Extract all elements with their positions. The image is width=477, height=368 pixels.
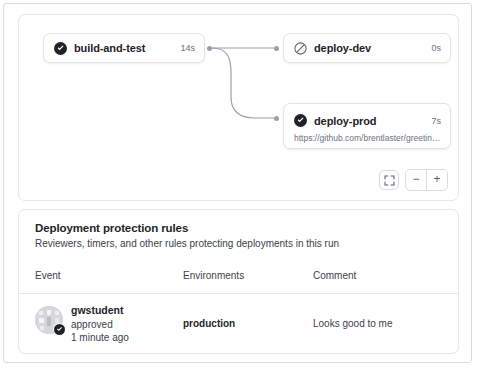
graph-controls: − + <box>379 169 448 191</box>
job-node-name: deploy-dev <box>314 42 424 54</box>
edge-anchor-prod-input <box>274 116 279 121</box>
check-circle-fill-icon <box>54 42 67 55</box>
fit-screen-button[interactable] <box>379 170 399 190</box>
cell-environment: production <box>183 304 313 329</box>
job-node-build-and-test[interactable]: build-and-test 14s <box>43 33 205 63</box>
check-circle-fill-icon <box>294 114 307 127</box>
job-node-duration: 0s <box>431 43 441 53</box>
deployment-protection-rules-panel: Deployment protection rules Reviewers, t… <box>18 209 459 354</box>
skip-circle-icon <box>294 42 307 55</box>
job-node-deployment-url[interactable]: https://github.com/brentlaster/greeting… <box>284 133 450 143</box>
rules-table: Event Environments Comment <box>19 263 458 344</box>
fit-screen-icon <box>384 175 395 186</box>
cell-comment: Looks good to me <box>313 304 442 329</box>
zoom-button-group: − + <box>405 169 448 191</box>
column-header-comment: Comment <box>313 270 442 281</box>
zoom-out-button[interactable]: − <box>406 170 426 188</box>
graph-canvas[interactable]: build-and-test 14s deploy-dev 0s <box>19 15 458 200</box>
job-node-name: deploy-prod <box>314 115 424 127</box>
job-node-deploy-dev[interactable]: deploy-dev 0s <box>283 33 451 63</box>
column-header-event: Event <box>35 270 183 281</box>
job-node-header: deploy-dev 0s <box>284 34 450 62</box>
event-action: approved <box>71 318 129 331</box>
avatar[interactable] <box>35 306 63 334</box>
job-node-duration: 7s <box>431 116 441 126</box>
check-circle-fill-icon <box>54 324 65 335</box>
event-details: gwstudent approved 1 minute ago <box>71 304 129 344</box>
edge-anchor-dev-input <box>274 46 279 51</box>
rules-title: Deployment protection rules <box>35 222 442 234</box>
event-user-name[interactable]: gwstudent <box>71 304 129 318</box>
workflow-graph-panel: build-and-test 14s deploy-dev 0s <box>18 14 459 201</box>
job-node-deploy-prod[interactable]: deploy-prod 7s https://github.com/brentl… <box>283 103 451 149</box>
job-node-header: deploy-prod 7s <box>284 107 450 135</box>
cell-event: gwstudent approved 1 minute ago <box>35 304 183 344</box>
job-node-header: build-and-test 14s <box>44 34 204 62</box>
table-row: gwstudent approved 1 minute ago producti… <box>19 294 458 344</box>
zoom-in-button[interactable]: + <box>427 170 447 188</box>
rules-table-header-row: Event Environments Comment <box>19 263 458 287</box>
screenshot-root: build-and-test 14s deploy-dev 0s <box>3 3 472 363</box>
rules-subtitle: Reviewers, timers, and other rules prote… <box>35 238 442 249</box>
edge-build-to-prod <box>212 48 274 118</box>
rules-header: Deployment protection rules Reviewers, t… <box>19 210 458 249</box>
job-node-duration: 14s <box>180 43 195 53</box>
approval-badge <box>53 323 65 335</box>
edge-anchor-build-output <box>207 46 212 51</box>
column-header-environments: Environments <box>183 270 313 281</box>
job-node-name: build-and-test <box>74 42 173 54</box>
event-timestamp: 1 minute ago <box>71 331 129 344</box>
